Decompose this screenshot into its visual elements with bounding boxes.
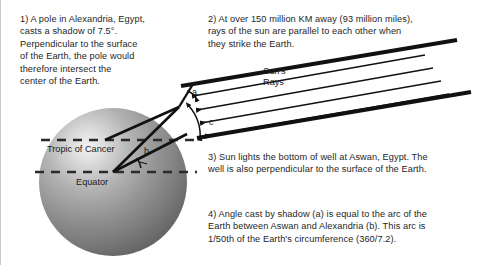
parallel-sun-rays	[193, 55, 449, 136]
explanation-paragraph-3: 3) Sun lights the bottom of well at Aswa…	[208, 151, 476, 176]
angle-b-label: b	[144, 146, 149, 157]
explanation-paragraph-1: 1) A pole in Alexandria, Egypt, casts a …	[20, 13, 195, 87]
earth-sphere	[39, 108, 187, 256]
figure-canvas: Tropic of Cancer Equator Sun's Rays a b …	[0, 0, 480, 265]
pole-at-alexandria	[179, 84, 193, 107]
equator-label: Equator	[76, 177, 108, 188]
suns-rays-label: Sun's Rays	[263, 66, 307, 88]
explanation-paragraph-2: 2) At over 150 million KM away (93 milli…	[208, 13, 473, 50]
angle-a-label: a	[192, 87, 197, 98]
explanation-paragraph-4: 4) Angle cast by shadow (a) is equal to …	[208, 208, 476, 245]
angle-c-arc	[189, 106, 200, 140]
tropic-of-cancer-label: Tropic of Cancer	[47, 144, 115, 155]
angle-c-label: c	[209, 117, 214, 128]
